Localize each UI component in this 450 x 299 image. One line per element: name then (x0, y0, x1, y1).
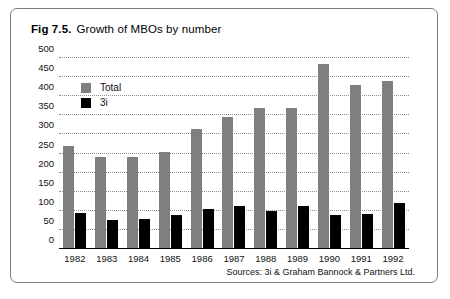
x-axis-tick-label: 1989 (282, 253, 314, 264)
bar-total-1988 (254, 108, 265, 249)
bar-group (377, 58, 409, 249)
y-axis-tick-label: 50 (14, 214, 54, 225)
legend-swatch-sub (81, 98, 91, 108)
bar-total-1984 (127, 157, 138, 249)
y-axis-tick-label: 100 (14, 195, 54, 206)
source-note: Sources: 3i & Graham Bannock & Partners … (226, 267, 415, 277)
bar-group (218, 58, 250, 249)
x-axis-tick-label: 1982 (59, 253, 91, 264)
bar-group (250, 58, 282, 249)
x-axis-line (59, 248, 409, 249)
bar-total-1987 (222, 117, 233, 249)
chart-legend: Total3i (81, 80, 121, 110)
legend-label: 3i (100, 97, 108, 108)
y-axis-tick-label: 300 (14, 119, 54, 130)
bar-group (154, 58, 186, 249)
bar-total-1986 (191, 129, 202, 249)
y-axis-tick-label: 150 (14, 176, 54, 187)
x-axis-tick-label: 1990 (314, 253, 346, 264)
bar-total-1991 (350, 85, 361, 249)
bar-3i-1991 (362, 214, 373, 249)
bar-group (282, 58, 314, 249)
bar-3i-1992 (394, 203, 405, 249)
bar-total-1989 (286, 108, 297, 249)
bar-group (123, 58, 155, 249)
x-axis-tick-label: 1992 (377, 253, 409, 264)
bar-group (186, 58, 218, 249)
x-axis-tick-label: 1986 (186, 253, 218, 264)
x-axis-labels: 1982198319841985198619871988198919901991… (59, 253, 409, 264)
y-axis-tick-label: 0 (14, 234, 54, 245)
legend-item: 3i (81, 95, 121, 110)
bar-3i-1990 (330, 215, 341, 249)
bar-3i-1982 (75, 213, 86, 249)
y-axis-tick-label: 350 (14, 100, 54, 111)
y-axis-tick-label: 200 (14, 157, 54, 168)
y-axis-tick-label: 500 (14, 43, 54, 54)
bar-3i-1983 (107, 220, 118, 249)
x-axis-tick-label: 1991 (345, 253, 377, 264)
y-axis-tick-label: 400 (14, 81, 54, 92)
y-axis-tick-label: 450 (14, 62, 54, 73)
bar-total-1985 (159, 152, 170, 249)
bar-3i-1988 (266, 211, 277, 249)
bar-3i-1989 (298, 206, 309, 249)
legend-swatch-total (81, 83, 91, 93)
figure-number: Fig 7.5. (31, 23, 71, 35)
bar-group (345, 58, 377, 249)
bar-total-1982 (63, 146, 74, 249)
x-axis-tick-label: 1985 (154, 253, 186, 264)
figure-caption: Fig 7.5.Growth of MBOs by number (31, 23, 221, 35)
bar-total-1983 (95, 157, 106, 249)
bar-3i-1987 (234, 206, 245, 249)
x-axis-tick-label: 1984 (123, 253, 155, 264)
page-title: Growth of MBOs by number (76, 23, 221, 35)
x-axis-tick-label: 1988 (250, 253, 282, 264)
bar-3i-1984 (139, 219, 150, 249)
bar-3i-1985 (171, 215, 182, 249)
legend-item: Total (81, 80, 121, 95)
y-axis-tick-label: 250 (14, 138, 54, 149)
bar-total-1992 (382, 81, 393, 249)
legend-label: Total (100, 82, 121, 93)
bar-group (314, 58, 346, 249)
bar-3i-1986 (203, 209, 214, 249)
x-axis-tick-label: 1987 (218, 253, 250, 264)
bar-total-1990 (318, 64, 329, 249)
figure-frame: Fig 7.5.Growth of MBOs by number 5004504… (10, 8, 438, 283)
x-axis-tick-label: 1983 (91, 253, 123, 264)
